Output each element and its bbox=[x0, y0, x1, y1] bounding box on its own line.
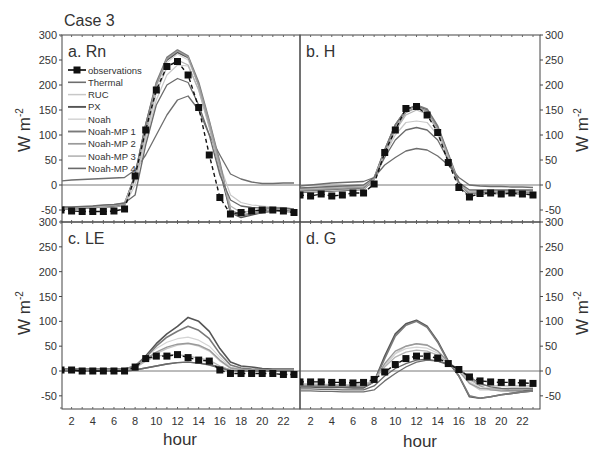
x-tick-label: 6 bbox=[111, 415, 117, 427]
observation-marker bbox=[392, 361, 399, 368]
observation-marker bbox=[424, 353, 431, 360]
observation-marker bbox=[455, 184, 462, 191]
observation-marker bbox=[291, 209, 298, 216]
y-tick-label: 200 bbox=[39, 79, 57, 91]
svg-text:W m-2: W m-2 bbox=[14, 291, 34, 335]
observation-marker bbox=[238, 370, 245, 377]
x-axis-label-right: hour bbox=[403, 432, 437, 451]
y-tick-label: 0 bbox=[51, 365, 57, 377]
svg-text:W m-2: W m-2 bbox=[572, 108, 592, 152]
x-tick-label: 22 bbox=[516, 415, 528, 427]
x-tick-label: 8 bbox=[371, 415, 377, 427]
observation-marker bbox=[291, 371, 298, 378]
y-tick-label: -50 bbox=[545, 204, 561, 216]
observation-marker bbox=[195, 357, 202, 364]
observation-marker bbox=[153, 353, 160, 360]
x-tick-label: 10 bbox=[150, 415, 162, 427]
observation-marker bbox=[297, 378, 304, 385]
observation-marker bbox=[455, 366, 462, 373]
x-tick-label: 8 bbox=[132, 415, 138, 427]
observation-marker bbox=[392, 127, 399, 134]
observation-marker bbox=[402, 355, 409, 362]
series-line-ruc bbox=[300, 121, 533, 193]
observation-marker bbox=[519, 191, 526, 198]
x-tick-label: 14 bbox=[193, 415, 205, 427]
observation-marker bbox=[174, 351, 181, 358]
y-tick-label: 0 bbox=[51, 179, 57, 191]
observation-marker bbox=[89, 368, 96, 375]
observation-marker bbox=[445, 159, 452, 166]
observation-marker bbox=[487, 378, 494, 385]
observation-marker bbox=[248, 208, 255, 215]
observation-marker bbox=[227, 211, 234, 218]
y-tick-label: 0 bbox=[545, 365, 551, 377]
y-axis-label-left-bottom: W m-2 bbox=[14, 291, 34, 335]
observation-marker bbox=[206, 152, 213, 159]
x-tick-label: 12 bbox=[171, 415, 183, 427]
observation-marker bbox=[121, 368, 128, 375]
observation-marker bbox=[424, 112, 431, 119]
observation-marker bbox=[381, 149, 388, 156]
observation-marker bbox=[434, 129, 441, 136]
x-tick-label: 18 bbox=[235, 415, 247, 427]
observation-marker bbox=[132, 364, 139, 371]
panel-a: -50050100150200250300a. Rn bbox=[39, 29, 300, 222]
y-tick-label: -50 bbox=[41, 204, 57, 216]
observation-marker bbox=[318, 191, 325, 198]
observation-marker bbox=[174, 58, 181, 65]
y-tick-label: 50 bbox=[545, 340, 557, 352]
y-tick-label: 250 bbox=[545, 54, 563, 66]
svg-text:W m-2: W m-2 bbox=[572, 291, 592, 335]
observation-marker bbox=[328, 379, 335, 386]
legend-label: Noah-MP 2 bbox=[88, 138, 136, 149]
x-tick-label: 16 bbox=[453, 415, 465, 427]
y-tick-label: 300 bbox=[39, 216, 57, 228]
legend-label: Noah-MP 1 bbox=[88, 126, 136, 137]
x-tick-label: 6 bbox=[350, 415, 356, 427]
y-tick-label: 300 bbox=[545, 216, 563, 228]
y-tick-label: 200 bbox=[545, 79, 563, 91]
observation-marker bbox=[58, 367, 65, 374]
observation-marker bbox=[110, 208, 117, 215]
x-tick-label: 12 bbox=[410, 415, 422, 427]
observation-marker bbox=[79, 208, 86, 215]
y-tick-label: 100 bbox=[545, 315, 563, 327]
y-tick-label: 250 bbox=[545, 241, 563, 253]
panel-title: a. Rn bbox=[68, 43, 106, 60]
y-tick-label: 150 bbox=[39, 291, 57, 303]
legend-label: Noah-MP 4 bbox=[88, 163, 136, 174]
x-tick-label: 2 bbox=[69, 415, 75, 427]
observation-marker bbox=[466, 373, 473, 380]
observation-marker bbox=[153, 87, 160, 94]
y-tick-label: 50 bbox=[45, 154, 57, 166]
panel-title: b. H bbox=[306, 43, 335, 60]
observation-marker bbox=[121, 206, 128, 213]
observation-marker bbox=[466, 194, 473, 201]
plot-frame bbox=[62, 222, 300, 409]
panel-title: c. LE bbox=[68, 230, 104, 247]
observation-marker bbox=[79, 368, 86, 375]
y-tick-label: 50 bbox=[545, 154, 557, 166]
legend: observationsThermalRUCPXNoahNoah-MP 1Noa… bbox=[68, 65, 142, 174]
observation-marker bbox=[100, 368, 107, 375]
observation-marker bbox=[413, 103, 420, 110]
observation-marker bbox=[206, 358, 213, 365]
y-tick-label: 250 bbox=[39, 54, 57, 66]
x-tick-label: 2 bbox=[308, 415, 314, 427]
observation-marker bbox=[269, 207, 276, 214]
observation-marker bbox=[100, 208, 107, 215]
observation-marker bbox=[142, 127, 149, 134]
observation-marker bbox=[413, 353, 420, 360]
y-axis-label-right-bottom: W m-2 bbox=[572, 291, 592, 335]
y-tick-label: 100 bbox=[39, 129, 57, 141]
x-tick-label: 14 bbox=[432, 415, 444, 427]
figure-title: Case 3 bbox=[64, 12, 115, 29]
x-tick-label: 22 bbox=[277, 415, 289, 427]
observation-marker bbox=[381, 368, 388, 375]
observation-marker bbox=[519, 379, 526, 386]
observation-marker bbox=[110, 368, 117, 375]
figure: Case 3 -50050100150200250300a. Rn -50050… bbox=[0, 0, 601, 462]
x-axis-label-left: hour bbox=[163, 430, 197, 449]
observation-marker bbox=[318, 378, 325, 385]
legend-label: PX bbox=[88, 101, 101, 112]
